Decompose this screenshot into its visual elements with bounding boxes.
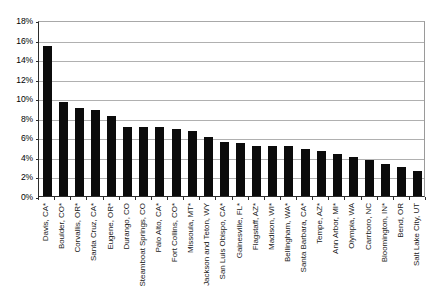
x-axis-label-slot: Bend, OR xyxy=(394,201,408,301)
x-axis-label-slot: San Luis Obispo, CA* xyxy=(216,201,230,301)
x-axis-label-slot: Bloomington, IN* xyxy=(378,201,392,301)
bar xyxy=(204,137,213,196)
x-axis-label-slot: Steamboat Springs, CO xyxy=(136,201,150,301)
x-axis-label-slot: Gainesville, FL* xyxy=(233,201,247,301)
x-axis-tick-label: Ann Arbor, MI* xyxy=(332,203,340,254)
bar xyxy=(333,154,342,196)
x-axis-tick-label: Santa Cruz, CA* xyxy=(90,203,98,261)
x-axis-label-slot: Fort Collins, CO* xyxy=(168,201,182,301)
y-axis-tick-label: 0% xyxy=(21,193,33,202)
x-axis-tick-label: Tempe, AZ* xyxy=(316,203,324,244)
x-axis-tick-label: Davis, CA* xyxy=(42,203,50,241)
y-axis-tick-label: 2% xyxy=(21,173,33,182)
x-axis-label-slot: Davis, CA* xyxy=(39,201,53,301)
x-axis-tick-label: Fort Collins, CO* xyxy=(171,203,179,262)
bar xyxy=(188,131,197,196)
bar xyxy=(301,149,310,196)
x-axis-tickmark xyxy=(232,197,233,200)
x-axis-tick-label: Madison, WI* xyxy=(268,203,276,250)
x-axis-label-slot: Salt Lake City, UT xyxy=(410,201,424,301)
x-axis-tickmark xyxy=(54,197,55,200)
x-axis-label-slot: Flagstaff, AZ* xyxy=(249,201,263,301)
x-axis-label-slot: Santa Barbara, CA* xyxy=(297,201,311,301)
x-axis-label-slot: Bellingham, WA* xyxy=(281,201,295,301)
x-axis-label-slot: Santa Cruz, CA* xyxy=(87,201,101,301)
y-axis-tick-label: 12% xyxy=(16,75,33,84)
x-axis-tick-label: Palo Alto, CA* xyxy=(155,203,163,253)
bar xyxy=(413,171,422,196)
x-axis-tick-label: Flagstaff, AZ* xyxy=(252,203,260,250)
bar xyxy=(155,127,164,196)
bar xyxy=(397,167,406,196)
bar xyxy=(381,164,390,196)
x-axis-tick-label: Bellingham, WA* xyxy=(284,203,292,262)
x-axis-tick-label: Salt Lake City, UT xyxy=(413,203,421,266)
x-axis-tickmark xyxy=(361,197,362,200)
x-axis-label-slot: Eugene, OR* xyxy=(104,201,118,301)
x-axis-tick-label: Missoula, MT* xyxy=(187,203,195,253)
x-axis-tick-label: Eugene, OR* xyxy=(107,203,115,250)
x-axis-tickmark xyxy=(103,197,104,200)
y-axis-tick-label: 4% xyxy=(21,153,33,162)
bars-layer xyxy=(39,22,424,196)
x-axis-label-slot: Palo Alto, CA* xyxy=(152,201,166,301)
x-axis-tickmark xyxy=(248,197,249,200)
x-axis-label-slot: Ann Arbor, MI* xyxy=(329,201,343,301)
x-axis-label-slot: Olympia, WA xyxy=(345,201,359,301)
bicycle-commute-bar-chart: 18%16%14%12%10%8%6%4%2%0% Davis, CA*Boul… xyxy=(0,0,442,303)
x-axis-label-slot: Madison, WI* xyxy=(265,201,279,301)
plot-area xyxy=(38,21,425,197)
x-axis-tick-label: San Luis Obispo, CA* xyxy=(219,203,227,279)
y-axis-tick-label: 18% xyxy=(16,17,33,26)
x-axis-tickmark xyxy=(393,197,394,200)
x-axis-label-slot: Corvallis, OR* xyxy=(71,201,85,301)
x-axis-tickmark xyxy=(215,197,216,200)
x-axis-tick-label: Durango, CO xyxy=(123,203,131,250)
x-axis-tickmark xyxy=(135,197,136,200)
y-axis-tick-label: 10% xyxy=(16,95,33,104)
x-axis-tickmark xyxy=(70,197,71,200)
bar xyxy=(91,110,100,196)
x-axis-label-slot: Durango, CO xyxy=(120,201,134,301)
x-axis-tick-label: Gainesville, FL* xyxy=(236,203,244,258)
x-axis-tickmark xyxy=(167,197,168,200)
x-axis-tickmark xyxy=(328,197,329,200)
x-axis-tickmark xyxy=(86,197,87,200)
x-axis: Davis, CA*Boulder, CO*Corvallis, OR*Sant… xyxy=(38,201,425,303)
x-axis-label-slot: Tempe, AZ* xyxy=(313,201,327,301)
x-axis-label-slot: Carrboro, NC xyxy=(362,201,376,301)
y-axis: 18%16%14%12%10%8%6%4%2%0% xyxy=(0,0,38,303)
y-axis-tick-label: 16% xyxy=(16,36,33,45)
x-axis-tick-label: Jackson and Teton, WY xyxy=(203,203,211,286)
x-axis-label-slot: Jackson and Teton, WY xyxy=(200,201,214,301)
x-axis-tickmark xyxy=(296,197,297,200)
x-axis-tick-label: Steamboat Springs, CO xyxy=(139,203,147,286)
x-axis-label-slot: Missoula, MT* xyxy=(184,201,198,301)
x-axis-tickmark xyxy=(183,197,184,200)
bar xyxy=(220,142,229,196)
bar xyxy=(317,151,326,196)
bar xyxy=(59,102,68,196)
bar xyxy=(75,108,84,196)
bar xyxy=(284,146,293,196)
x-axis-label-slot: Boulder, CO* xyxy=(55,201,69,301)
x-axis-tickmark xyxy=(264,197,265,200)
x-axis-tickmark xyxy=(344,197,345,200)
x-axis-tick-label: Bend, OR xyxy=(397,203,405,238)
x-axis-tick-label: Corvallis, OR* xyxy=(74,203,82,253)
x-axis-tick-label: Santa Barbara, CA* xyxy=(300,203,308,272)
x-axis-tick-label: Boulder, CO* xyxy=(58,203,66,249)
y-axis-tick-label: 14% xyxy=(16,56,33,65)
x-axis-tickmark xyxy=(409,197,410,200)
x-axis-tickmark xyxy=(312,197,313,200)
x-axis-tickmark xyxy=(119,197,120,200)
bar xyxy=(268,146,277,196)
x-axis-tick-label: Bloomington, IN* xyxy=(381,203,389,262)
x-axis-tickmark xyxy=(38,197,39,200)
bar xyxy=(252,146,261,196)
y-axis-tick-label: 8% xyxy=(21,114,33,123)
bar xyxy=(107,116,116,196)
x-axis-tickmark xyxy=(377,197,378,200)
bar xyxy=(123,127,132,196)
bar xyxy=(172,129,181,196)
